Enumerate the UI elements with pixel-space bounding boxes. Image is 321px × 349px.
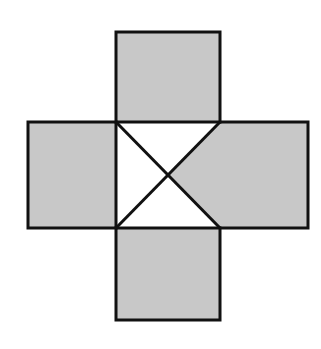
bottom-square-fill [116, 228, 220, 320]
cross-net-diagram [0, 0, 321, 349]
top-square-fill [116, 32, 220, 122]
right-rectangle-fill [220, 122, 308, 228]
left-rectangle-fill [28, 122, 116, 228]
